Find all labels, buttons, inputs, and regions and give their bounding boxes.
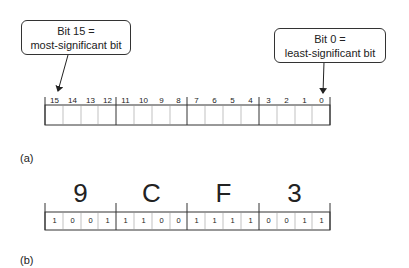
- bit-number: 0: [313, 96, 330, 105]
- msb-arrow: [58, 55, 68, 91]
- bit-value: 1: [224, 216, 241, 225]
- bit-number: 2: [278, 96, 295, 105]
- bit-number: 14: [64, 96, 81, 105]
- lsb-arrow: [323, 62, 324, 93]
- bit-number: 1: [296, 96, 313, 105]
- bit-value: 1: [117, 216, 134, 225]
- lsb-callout: Bit 0 = least-significant bit: [274, 28, 386, 63]
- msb-callout: Bit 15 = most-significant bit: [21, 20, 131, 55]
- bit-value: 1: [99, 216, 116, 225]
- bit-number: 4: [242, 96, 259, 105]
- bit-value: 0: [64, 216, 81, 225]
- hex-digit: F: [188, 180, 259, 206]
- bit-value: 0: [278, 216, 295, 225]
- bit-number: 3: [260, 96, 277, 105]
- bit-number: 10: [135, 96, 152, 105]
- lsb-callout-line1: Bit 0 =: [279, 32, 381, 46]
- bit-number: 11: [117, 96, 134, 105]
- bit-value: 1: [206, 216, 223, 225]
- bit-value: 1: [46, 216, 63, 225]
- bit-number: 6: [206, 96, 223, 105]
- bit-number: 9: [153, 96, 170, 105]
- label-a: (a): [20, 152, 33, 164]
- bit-value: 1: [296, 216, 313, 225]
- bit-number: 8: [170, 96, 187, 105]
- bit-value: 1: [313, 216, 330, 225]
- hex-digit: 3: [259, 180, 330, 206]
- bit-number: 15: [46, 96, 63, 105]
- bit-value: 1: [242, 216, 259, 225]
- lsb-callout-line2: least-significant bit: [279, 46, 381, 60]
- bit-number: 13: [82, 96, 99, 105]
- bit-number: 7: [188, 96, 205, 105]
- bit-value: 0: [82, 216, 99, 225]
- bit-number: 5: [224, 96, 241, 105]
- hex-digit: 9: [45, 180, 116, 206]
- bit-value: 0: [170, 216, 187, 225]
- bit-value: 1: [135, 216, 152, 225]
- bit-value: 0: [153, 216, 170, 225]
- bit-value: 0: [260, 216, 277, 225]
- bit-number: 12: [99, 96, 116, 105]
- bit-value: 1: [188, 216, 205, 225]
- msb-callout-line1: Bit 15 =: [26, 24, 126, 38]
- msb-callout-line2: most-significant bit: [26, 38, 126, 52]
- hex-digit: C: [116, 180, 187, 206]
- label-b: (b): [20, 254, 33, 266]
